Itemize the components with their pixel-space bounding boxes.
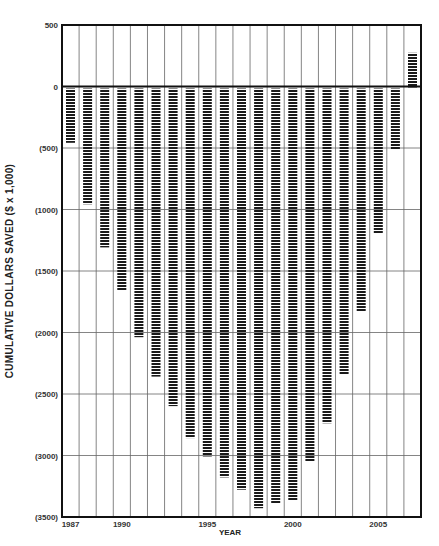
bar-2004 — [357, 89, 366, 312]
y-tick-label: (1500) — [35, 267, 58, 276]
x-axis-label: YEAR — [219, 528, 241, 537]
bar-1993 — [169, 89, 178, 407]
x-tick-label: 1995 — [198, 520, 216, 529]
bar-1995 — [203, 89, 212, 457]
bar-1987 — [66, 89, 75, 143]
y-tick-label: (3500) — [35, 513, 58, 522]
y-tick-label: 0 — [54, 83, 59, 92]
bar-1988 — [83, 89, 92, 205]
y-axis-label: CUMULATIVE DOLLARS SAVED ($ x 1,000) — [4, 164, 15, 378]
y-tick-label: (500) — [39, 144, 58, 153]
bar-1996 — [220, 89, 229, 478]
bar-2006 — [391, 89, 400, 150]
bar-1999 — [271, 89, 280, 504]
x-tick-label: 2005 — [369, 520, 387, 529]
y-tick-label: (2000) — [35, 329, 58, 338]
bar-2001 — [305, 89, 314, 462]
y-axis-tick-labels: 5000(500)(1000)(1500)(2000)(2500)(3000)(… — [35, 21, 59, 522]
bar-2002 — [323, 89, 332, 424]
bar-series — [66, 53, 417, 508]
y-tick-label: (3000) — [35, 452, 58, 461]
bar-1994 — [186, 89, 195, 439]
bar-1991 — [134, 89, 143, 338]
bar-2007 — [408, 53, 417, 88]
cumulative-savings-chart: 5000(500)(1000)(1500)(2000)(2500)(3000)(… — [0, 0, 439, 546]
x-tick-label: 1990 — [113, 520, 131, 529]
bar-1992 — [152, 89, 161, 377]
bar-1998 — [254, 89, 263, 509]
x-tick-label: 2000 — [284, 520, 302, 529]
bar-2003 — [340, 89, 349, 375]
bar-1990 — [117, 89, 126, 291]
bar-2005 — [374, 89, 383, 234]
x-tick-label: 1987 — [62, 520, 80, 529]
bar-2000 — [288, 89, 297, 501]
y-tick-label: 500 — [45, 21, 59, 30]
bar-1989 — [100, 89, 109, 248]
y-tick-label: (2500) — [35, 390, 58, 399]
y-tick-label: (1000) — [35, 206, 58, 215]
bar-1997 — [237, 89, 246, 490]
